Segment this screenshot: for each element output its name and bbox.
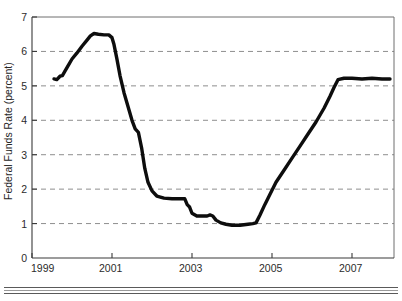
federal-funds-rate-line-chart: 7 6 5 4 3 2 1 0 1999 2001 2003 2005 2007… xyxy=(0,0,402,301)
y-tick-label-7: 7 xyxy=(21,11,27,23)
y-tick-label-0: 0 xyxy=(21,252,27,264)
y-tick-labels: 7 6 5 4 3 2 1 0 xyxy=(21,11,27,264)
plot-background xyxy=(32,17,394,258)
y-tick-label-3: 3 xyxy=(21,149,27,161)
y-tick-label-5: 5 xyxy=(21,80,27,92)
x-tick-label-1999: 1999 xyxy=(31,262,55,274)
footer-divider xyxy=(4,288,398,294)
x-tick-label-2007: 2007 xyxy=(339,262,363,274)
x-tick-label-2005: 2005 xyxy=(259,262,283,274)
y-tick-label-6: 6 xyxy=(21,45,27,57)
y-axis-title: Federal Funds Rate (percent) xyxy=(2,62,14,200)
y-tick-label-4: 4 xyxy=(21,114,27,126)
x-tick-label-2001: 2001 xyxy=(99,262,123,274)
x-tick-label-2003: 2003 xyxy=(179,262,203,274)
x-tick-labels: 1999 2001 2003 2005 2007 xyxy=(31,262,363,274)
y-tick-label-1: 1 xyxy=(21,218,27,230)
y-tick-label-2: 2 xyxy=(21,183,27,195)
chart-figure: 7 6 5 4 3 2 1 0 1999 2001 2003 2005 2007… xyxy=(0,0,402,301)
